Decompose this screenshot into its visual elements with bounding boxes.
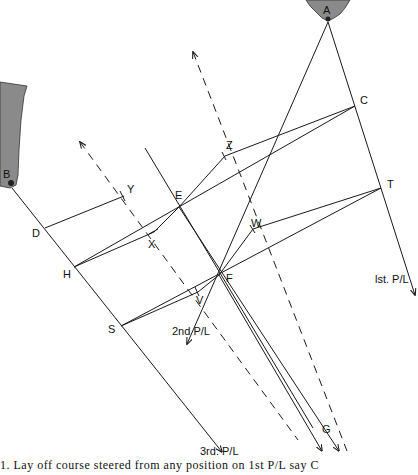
run-t-s <box>121 188 381 326</box>
label-d: D <box>32 227 40 239</box>
run-c-h <box>74 106 355 267</box>
label-second-pl: 2nd P/L <box>172 325 210 337</box>
label-b: B <box>3 168 10 180</box>
point-labels: A B C T Z E Y D X H W F V S G <box>3 4 394 435</box>
first-position-line <box>328 22 415 295</box>
label-v: V <box>196 294 204 306</box>
label-e: E <box>175 189 182 201</box>
figure-caption: 1. Lay off course steered from any posit… <box>0 458 418 475</box>
label-y: Y <box>127 183 135 195</box>
tick-x <box>149 229 158 234</box>
tide-line-left <box>80 142 298 440</box>
position-line-diagram: A B C T Z E Y D X H W F V S G lst. P/L 2… <box>0 0 418 475</box>
label-t: T <box>387 178 394 190</box>
line-d-y <box>45 196 124 228</box>
label-first-pl: lst. P/L <box>375 273 409 285</box>
tide-line-middle <box>193 52 347 451</box>
transferred-line-ef <box>145 148 313 428</box>
bearing-line-a <box>187 22 328 344</box>
label-x: X <box>148 238 156 250</box>
label-f: F <box>226 272 233 284</box>
label-w: W <box>251 217 262 229</box>
label-s: S <box>108 323 115 335</box>
label-z: Z <box>226 139 233 151</box>
line-to-g-1 <box>219 275 322 451</box>
label-third-pl: 3rd. P/L <box>200 445 239 457</box>
label-c: C <box>360 94 368 106</box>
label-g: G <box>322 423 331 435</box>
third-position-line <box>12 188 222 452</box>
label-a: A <box>323 4 331 16</box>
label-h: H <box>63 268 71 280</box>
